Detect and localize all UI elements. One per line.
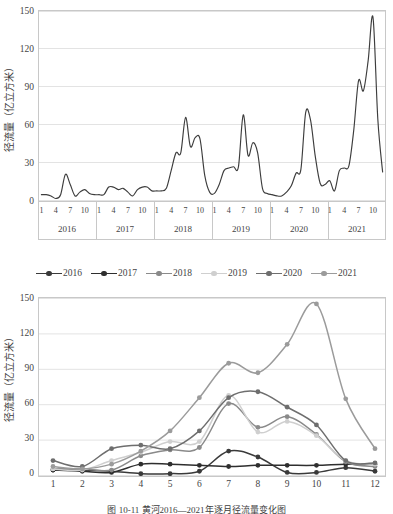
top-year-label-2019: 2019 <box>212 224 270 234</box>
bottom-series-marker-2020-m5 <box>168 446 173 451</box>
top-year-label-2018: 2018 <box>154 224 212 234</box>
top-chart-plot <box>39 11 385 201</box>
bottom-series-marker-2016-m5 <box>168 471 173 476</box>
bottom-series-marker-2018-m9 <box>285 414 290 419</box>
bottom-series-marker-2021-m1 <box>51 464 56 469</box>
bottom-series-marker-2021-m12 <box>373 446 378 451</box>
top-ytick-120: 120 <box>8 45 34 54</box>
bottom-series-marker-2018-m7 <box>226 401 231 406</box>
bottom-x-tick-12: 12 <box>365 480 385 489</box>
bottom-series-marker-2021-m8 <box>256 370 261 375</box>
bottom-series-marker-2017-m8 <box>256 463 261 468</box>
bottom-series-line-2020 <box>53 391 375 467</box>
bottom-series-marker-2016-m9 <box>285 470 290 475</box>
bottom-series-marker-2020-m1 <box>51 458 56 463</box>
bottom-series-marker-2021-m4 <box>138 449 143 454</box>
bottom-x-tick-3: 3 <box>102 480 122 489</box>
bottom-chart-plot <box>39 298 385 476</box>
bottom-series-marker-2020-m11 <box>343 458 348 463</box>
legend-label-2017: 2017 <box>118 268 137 278</box>
legend-key-2016-icon <box>36 269 62 278</box>
top-year-label-2017: 2017 <box>96 224 154 234</box>
top-year-label-2020: 2020 <box>270 224 328 234</box>
bottom-x-tick-11: 11 <box>336 480 356 489</box>
bottom-series-marker-2021-m9 <box>285 342 290 347</box>
bottom-ytick-120: 120 <box>8 329 34 338</box>
bottom-series-marker-2020-m6 <box>197 429 202 434</box>
bottom-x-tick-6: 6 <box>189 480 209 489</box>
legend-label-2018: 2018 <box>173 268 192 278</box>
bottom-series-marker-2018-m3 <box>109 468 114 473</box>
legend-item-2019[interactable]: 2019 <box>201 268 247 278</box>
bottom-series-marker-2016-m7 <box>226 449 231 454</box>
bottom-series-marker-2016-m6 <box>197 469 202 474</box>
bottom-series-line-2019 <box>53 395 375 470</box>
legend-item-2020[interactable]: 2020 <box>256 268 302 278</box>
bottom-series-marker-2016-m12 <box>373 469 378 474</box>
bottom-x-tick-7: 7 <box>219 480 239 489</box>
bottom-series-marker-2017-m10 <box>314 463 319 468</box>
bottom-series-marker-2021-m7 <box>226 361 231 366</box>
bottom-series-marker-2021-m11 <box>343 396 348 401</box>
bottom-series-marker-2018-m6 <box>197 445 202 450</box>
bottom-series-marker-2016-m8 <box>256 455 261 460</box>
bottom-x-tick-9: 9 <box>277 480 297 489</box>
top-chart-series-line <box>41 16 382 199</box>
bottom-series-marker-2021-m6 <box>197 395 202 400</box>
bottom-series-marker-2021-m3 <box>109 462 114 467</box>
bottom-series-marker-2017-m7 <box>226 464 231 469</box>
bottom-series-marker-2020-m4 <box>138 443 143 448</box>
bottom-series-marker-2018-m8 <box>256 425 261 430</box>
bottom-x-tick-8: 8 <box>248 480 268 489</box>
legend-key-2021-icon <box>311 269 337 278</box>
legend-label-2021: 2021 <box>338 268 357 278</box>
bottom-chart-legend: 2016 2017 2018 2019 <box>0 268 393 278</box>
bottom-series-marker-2021-m10 <box>314 302 319 307</box>
top-ytick-90: 90 <box>8 83 34 92</box>
legend-label-2019: 2019 <box>228 268 247 278</box>
bottom-series-marker-2020-m7 <box>226 395 231 400</box>
bottom-ytick-90: 90 <box>8 364 34 373</box>
bottom-chart-y-axis-title: 径流量（亿立方米） <box>1 350 16 422</box>
bottom-series-marker-2017-m6 <box>197 463 202 468</box>
bottom-x-tick-4: 4 <box>131 480 151 489</box>
top-chart-figure: 径流量（亿立方米） 0 30 60 90 120 150 14710 <box>0 0 393 250</box>
top-ytick-60: 60 <box>8 121 34 130</box>
bottom-ytick-150: 150 <box>8 294 34 303</box>
bottom-x-tick-1: 1 <box>43 480 63 489</box>
bottom-ytick-0: 0 <box>8 469 34 478</box>
top-month-tick-2021-10: 10 <box>364 206 382 215</box>
legend-label-2020: 2020 <box>283 268 302 278</box>
bottom-ytick-60: 60 <box>8 399 34 408</box>
top-ytick-30: 30 <box>8 159 34 168</box>
bottom-series-marker-2020-m3 <box>109 446 114 451</box>
bottom-chart-plot-frame <box>38 297 386 477</box>
bottom-series-marker-2017-m9 <box>285 463 290 468</box>
top-chart-plot-frame <box>38 10 386 202</box>
figure-caption: 图 10-11 黄河2016—2021年逐月径流量变化图 <box>0 503 393 514</box>
bottom-series-marker-2016-m4 <box>138 471 143 476</box>
bottom-series-marker-2020-m8 <box>256 389 261 394</box>
bottom-chart-figure: 2016 2017 2018 2019 <box>0 262 393 500</box>
legend-key-2019-icon <box>201 269 227 278</box>
bottom-x-tick-5: 5 <box>160 480 180 489</box>
bottom-series-marker-2020-m9 <box>285 405 290 410</box>
legend-key-2018-icon <box>146 269 172 278</box>
top-year-label-2016: 2016 <box>38 224 96 234</box>
bottom-x-tick-10: 10 <box>306 480 326 489</box>
bottom-series-marker-2020-m10 <box>314 423 319 428</box>
bottom-series-marker-2021-m5 <box>168 429 173 434</box>
bottom-series-marker-2019-m5 <box>168 439 173 444</box>
legend-key-2020-icon <box>256 269 282 278</box>
legend-item-2017[interactable]: 2017 <box>91 268 137 278</box>
bottom-series-marker-2019-m8 <box>256 430 261 435</box>
bottom-ytick-30: 30 <box>8 434 34 443</box>
legend-item-2021[interactable]: 2021 <box>311 268 357 278</box>
bottom-series-marker-2016-m10 <box>314 470 319 475</box>
top-ytick-150: 150 <box>8 7 34 16</box>
bottom-series-marker-2017-m4 <box>138 462 143 467</box>
legend-item-2018[interactable]: 2018 <box>146 268 192 278</box>
bottom-series-marker-2019-m6 <box>197 439 202 444</box>
legend-item-2016[interactable]: 2016 <box>36 268 82 278</box>
bottom-series-marker-2019-m10 <box>314 433 319 438</box>
